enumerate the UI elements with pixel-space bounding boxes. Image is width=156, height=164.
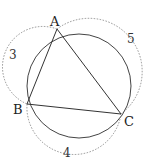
arc-ab xyxy=(2,26,57,104)
length-bc: 4 xyxy=(63,146,71,160)
label-a: A xyxy=(49,14,60,29)
length-ac: 5 xyxy=(127,32,135,46)
label-c: C xyxy=(124,114,134,129)
arc-bc xyxy=(27,104,121,154)
length-ab: 3 xyxy=(9,48,17,62)
label-b: B xyxy=(13,102,23,117)
diagram: A B C 3 5 4 xyxy=(0,0,156,164)
circumcircle xyxy=(27,34,131,138)
